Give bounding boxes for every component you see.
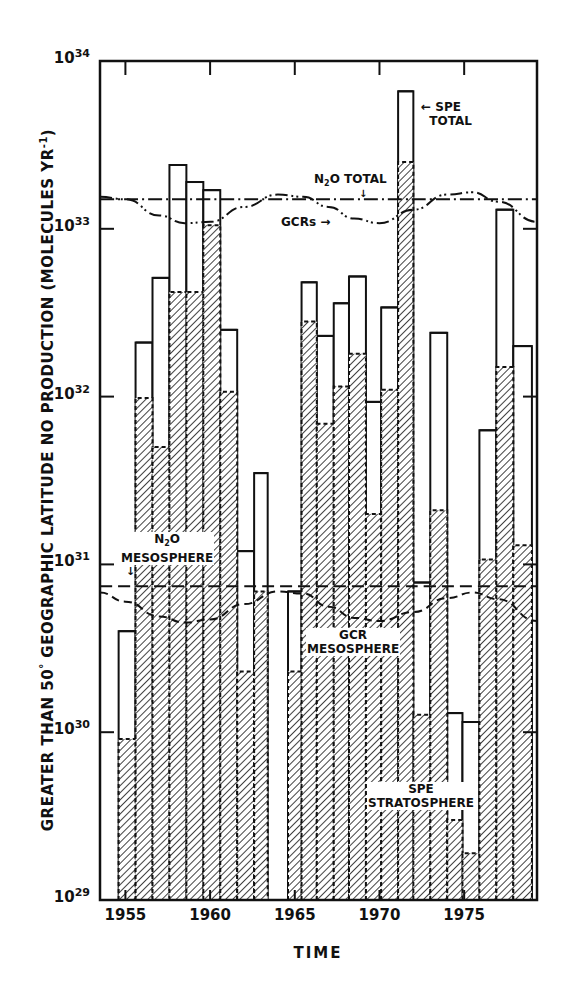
- chart-plot: [0, 0, 565, 996]
- y-axis-label: GREATER THAN 50° GEOGRAPHIC LATITUDE NO …: [38, 129, 57, 831]
- spe-stratosphere-bar: [366, 514, 381, 900]
- x-axis-label: TIME: [294, 944, 343, 962]
- x-tick-label: 1970: [359, 906, 401, 924]
- spe-stratosphere-bar: [169, 292, 186, 900]
- spe-stratosphere-bar: [349, 354, 366, 900]
- x-tick-label: 1955: [105, 906, 147, 924]
- arrow-right-icon: →: [320, 215, 330, 229]
- annotation-spe-total: ← SPE TOTAL: [420, 100, 473, 128]
- x-tick-label: 1965: [274, 906, 316, 924]
- spe-stratosphere-bar: [136, 398, 153, 900]
- annotation-n2o-total-arrow: ↓: [358, 187, 368, 201]
- annotation-n2o-mesosphere-arrow: ↓: [125, 565, 136, 579]
- spe-stratosphere-bar: [288, 672, 302, 900]
- arrow-left-icon: ←: [421, 100, 431, 114]
- annotation-n2o-total: N2O TOTAL: [313, 172, 388, 191]
- spe-stratosphere-bar: [430, 510, 447, 900]
- spe-stratosphere-bar: [186, 292, 203, 900]
- spe-stratosphere-bar: [254, 591, 268, 900]
- y-tick-label: 1029: [30, 886, 90, 906]
- spe-stratosphere-bar: [119, 739, 136, 900]
- spe-stratosphere-bar: [153, 447, 170, 900]
- annotation-gcr-mesosphere: GCRMESOSPHERE: [306, 628, 400, 656]
- annotation-gcrs: GCRs →: [280, 215, 331, 229]
- y-tick-label: 1034: [30, 47, 90, 67]
- spe-stratosphere-bar: [220, 392, 237, 900]
- spe-stratosphere-bar: [317, 424, 334, 900]
- spe-stratosphere-bar: [513, 545, 532, 900]
- spe-stratosphere-bar: [496, 367, 513, 900]
- spe-total-bars: [119, 91, 532, 900]
- x-tick-label: 1975: [443, 906, 485, 924]
- annotation-n2o-mesosphere: N2OMESOSPHERE: [120, 532, 214, 565]
- spe-stratosphere-bar: [237, 672, 254, 900]
- spe-stratosphere-bar: [302, 322, 317, 900]
- x-tick-label: 1960: [189, 906, 231, 924]
- spe-stratosphere-bar: [447, 820, 462, 900]
- annotation-spe-stratosphere: SPESTRATOSPHERE: [367, 782, 475, 810]
- spe-stratosphere-bar: [479, 559, 496, 900]
